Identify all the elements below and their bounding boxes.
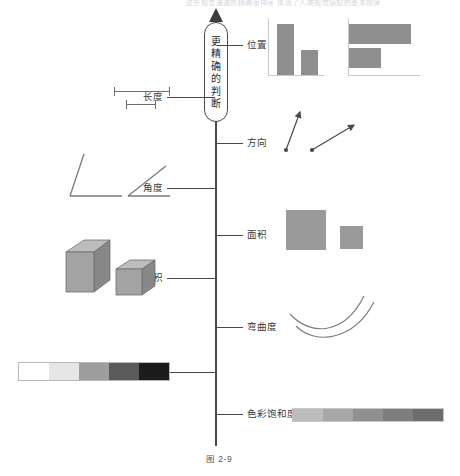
brightness-step-2 xyxy=(49,363,79,380)
area-square-small xyxy=(340,226,363,249)
channel-label-saturation: 色彩饱和度 xyxy=(247,408,297,419)
rule-long-cap-left xyxy=(114,87,115,96)
bar-a xyxy=(277,24,294,75)
rule-short-line xyxy=(126,104,156,105)
example-brightness-ramp xyxy=(18,362,170,381)
figure-caption: 图 2-9 xyxy=(206,452,232,464)
saturation-step-4 xyxy=(383,409,413,421)
example-direction xyxy=(278,106,368,156)
page-header-text: 这些视觉通道的精确度排序 体现了人类视觉感知的基本规律 xyxy=(186,0,456,8)
area-square-large xyxy=(286,210,326,250)
arrow-origin-dot-2 xyxy=(310,148,314,152)
example-curvature xyxy=(288,292,384,344)
example-saturation-ramp xyxy=(292,408,444,422)
bar-b xyxy=(301,50,318,75)
tick-direction xyxy=(217,143,243,144)
example-position xyxy=(268,18,448,80)
rule-short-cap-right xyxy=(155,100,156,109)
tick-saturation xyxy=(217,414,243,415)
channel-label-direction: 方向 xyxy=(247,137,267,148)
example-length xyxy=(112,86,176,110)
vbar-xaxis xyxy=(268,75,324,76)
rule-short-cap-left xyxy=(126,100,127,109)
up-arrow-icon xyxy=(209,8,223,22)
tick-area xyxy=(217,235,243,236)
capsule-char-5: 断 xyxy=(211,98,221,111)
curvature-arcs-icon xyxy=(288,292,384,344)
channel-label-area: 面积 xyxy=(247,229,267,240)
capsule-char-1: 精 xyxy=(211,48,221,61)
tick-position xyxy=(217,45,243,46)
arrow-origin-dot-1 xyxy=(284,148,288,152)
hbar-b xyxy=(349,48,381,68)
channel-label-curvature: 弯曲度 xyxy=(247,321,277,332)
brightness-step-5 xyxy=(139,363,169,380)
saturation-step-3 xyxy=(353,409,383,421)
capsule-char-2: 确 xyxy=(211,61,221,74)
capsule-char-3: 的 xyxy=(211,73,221,86)
example-volume xyxy=(60,234,170,300)
rule-long-line xyxy=(114,91,170,92)
brightness-step-1 xyxy=(19,363,49,380)
tick-brightness xyxy=(167,372,215,373)
example-area xyxy=(286,210,366,254)
brightness-step-4 xyxy=(109,363,139,380)
channel-label-position: 位置 xyxy=(247,39,267,50)
hbar-xaxis xyxy=(348,75,420,76)
brightness-step-3 xyxy=(79,363,109,380)
saturation-step-1 xyxy=(293,409,323,421)
angle-figures-icon xyxy=(66,152,170,200)
figure-canvas: 这些视觉通道的精确度排序 体现了人类视觉感知的基本规律 更 精 确 的 判 断 … xyxy=(0,0,460,476)
vbar-yaxis xyxy=(268,18,269,76)
tick-curvature xyxy=(217,327,243,328)
saturation-step-2 xyxy=(323,409,353,421)
tick-volume xyxy=(167,278,215,279)
volume-boxes-icon xyxy=(60,234,170,300)
direction-arrows-icon xyxy=(278,106,368,156)
rule-long-cap-right xyxy=(169,87,170,96)
tick-angle xyxy=(167,188,215,189)
example-angle xyxy=(66,152,170,200)
hbar-a xyxy=(349,24,411,44)
saturation-step-5 xyxy=(413,409,443,421)
capsule-label: 更 精 确 的 判 断 xyxy=(204,26,228,120)
